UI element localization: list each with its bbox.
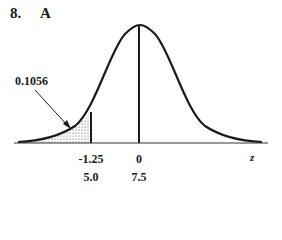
axis-label: z (250, 152, 254, 163)
area-arrow (35, 90, 68, 126)
tick-z-mean: 0 (136, 153, 142, 165)
area-label: 0.1056 (15, 75, 48, 87)
tick-z-cutoff: -1.25 (79, 153, 104, 165)
tick-x-mean: 7.5 (132, 171, 147, 183)
shaded-area (18, 112, 91, 143)
tick-x-cutoff: 5.0 (84, 171, 99, 183)
